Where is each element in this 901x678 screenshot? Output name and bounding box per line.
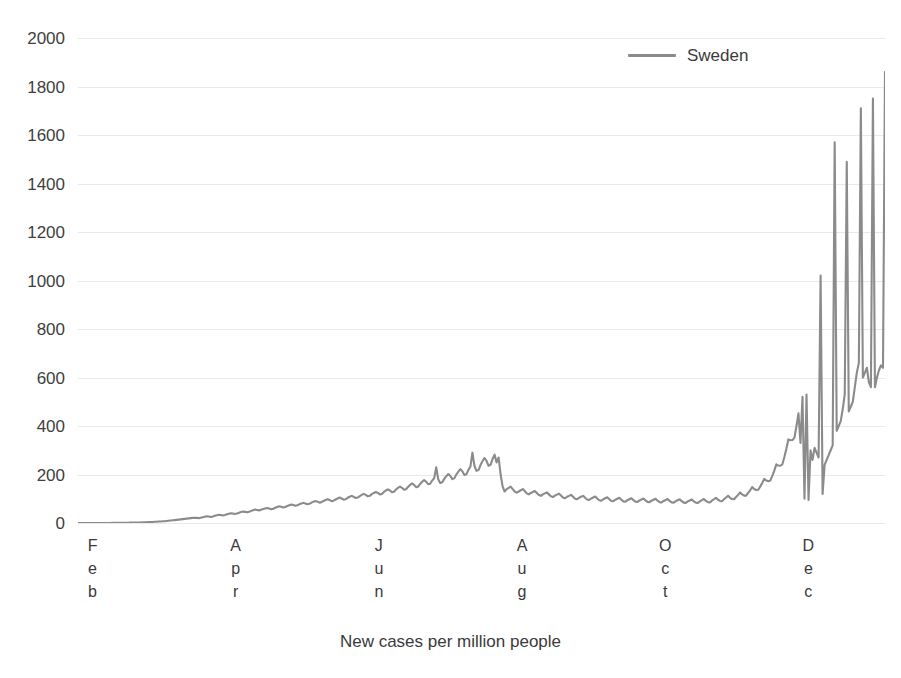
x-axis-tick-label-aug: Aug <box>507 534 537 603</box>
y-axis-tick-label: 1200 <box>5 224 65 241</box>
y-axis-tick-label: 1800 <box>5 78 65 95</box>
gridline <box>78 523 885 524</box>
y-axis-tick-label: 1600 <box>5 127 65 144</box>
y-axis-tick-label: 2000 <box>5 30 65 47</box>
x-tick-letter: g <box>507 580 537 603</box>
y-axis-tick-label: 0 <box>5 515 65 532</box>
x-tick-letter: O <box>650 534 680 557</box>
x-tick-letter: t <box>650 580 680 603</box>
x-axis-tick-labels: FebAprJunAugOctDec <box>78 534 885 620</box>
x-tick-letter: J <box>364 534 394 557</box>
x-tick-letter: p <box>221 557 251 580</box>
y-axis-tick-label: 800 <box>5 321 65 338</box>
x-tick-letter: e <box>78 557 108 580</box>
x-tick-letter: e <box>793 557 823 580</box>
y-axis-tick-label: 200 <box>5 466 65 483</box>
x-tick-letter: A <box>507 534 537 557</box>
chart-container: Sweden 200018001600140012001000800600400… <box>0 0 901 678</box>
y-axis-tick-label: 400 <box>5 418 65 435</box>
x-tick-letter: r <box>221 580 251 603</box>
x-axis-title: New cases per million people <box>0 632 901 652</box>
x-tick-letter: u <box>364 557 394 580</box>
x-tick-letter: c <box>793 580 823 603</box>
x-axis-tick-label-oct: Oct <box>650 534 680 603</box>
y-axis-tick-label: 1400 <box>5 175 65 192</box>
x-tick-letter: F <box>78 534 108 557</box>
clipped-header-text <box>78 0 778 6</box>
x-tick-letter: D <box>793 534 823 557</box>
x-tick-letter: A <box>221 534 251 557</box>
x-axis-tick-label-jun: Jun <box>364 534 394 603</box>
x-tick-letter: b <box>78 580 108 603</box>
series-line-sweden <box>78 38 885 523</box>
x-axis-tick-label-feb: Feb <box>78 534 108 603</box>
x-tick-letter: c <box>650 557 680 580</box>
x-tick-letter: n <box>364 580 394 603</box>
x-axis-tick-label-apr: Apr <box>221 534 251 603</box>
y-axis-tick-label: 1000 <box>5 272 65 289</box>
x-axis-tick-label-dec: Dec <box>793 534 823 603</box>
x-tick-letter: u <box>507 557 537 580</box>
plot-area <box>78 38 885 523</box>
y-axis-tick-label: 600 <box>5 369 65 386</box>
